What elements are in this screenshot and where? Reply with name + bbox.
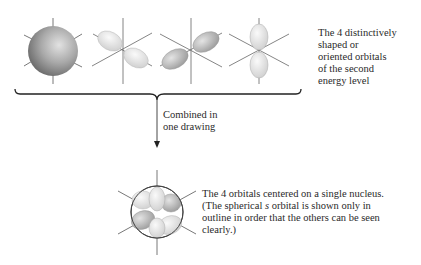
brace	[15, 89, 301, 100]
s-orbital	[24, 18, 82, 84]
orbital-diagram: The 4 distinctively shaped or oriented o…	[0, 0, 421, 265]
bottom-caption: The 4 orbitals centered on a single nucl…	[202, 188, 417, 236]
p-orbital-y	[158, 18, 222, 84]
p-orbital-z	[229, 18, 289, 84]
top-caption: The 4 distinctively shaped or oriented o…	[318, 27, 421, 87]
middle-caption: Combined in one drawing	[163, 109, 253, 133]
combined-orbitals	[118, 170, 196, 255]
p-orbital-x	[92, 18, 152, 84]
arrow-down-icon	[154, 100, 160, 148]
